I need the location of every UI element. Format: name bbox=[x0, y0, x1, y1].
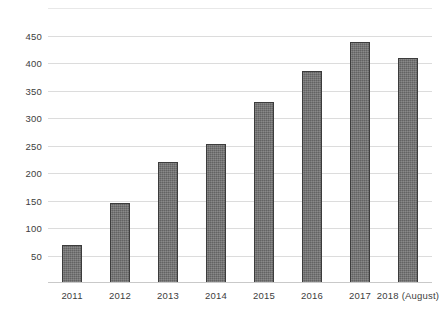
y-tick-label: 300 bbox=[2, 113, 42, 124]
x-tick-label: 2016 bbox=[301, 290, 323, 301]
bar bbox=[350, 42, 370, 283]
bar bbox=[206, 144, 226, 283]
y-tick-label: 350 bbox=[2, 85, 42, 96]
y-tick-label: 150 bbox=[2, 195, 42, 206]
y-tick-label: 250 bbox=[2, 140, 42, 151]
x-tick-label: 2011 bbox=[61, 290, 82, 301]
x-tick-label: 2012 bbox=[109, 290, 131, 301]
gridline-50 bbox=[48, 256, 432, 257]
bar bbox=[62, 245, 82, 284]
y-tick-label: 50 bbox=[2, 250, 42, 261]
x-axis-line bbox=[48, 282, 432, 283]
gridline-150 bbox=[48, 201, 432, 202]
gridline-500 bbox=[48, 8, 432, 9]
x-tick-label: 2015 bbox=[253, 290, 275, 301]
bar bbox=[398, 58, 418, 284]
y-tick-label: 100 bbox=[2, 223, 42, 234]
gridline-300 bbox=[48, 118, 432, 119]
y-axis: 50100150200250300350400450 bbox=[0, 8, 42, 283]
y-tick-label: 450 bbox=[2, 30, 42, 41]
gridline-100 bbox=[48, 228, 432, 229]
gridline-350 bbox=[48, 91, 432, 92]
bar bbox=[254, 102, 274, 284]
bar bbox=[302, 71, 322, 283]
x-tick-label: 2018 (August) bbox=[377, 290, 439, 301]
gridline-450 bbox=[48, 36, 432, 37]
plot-area bbox=[48, 8, 432, 283]
y-tick-label: 200 bbox=[2, 168, 42, 179]
bar bbox=[110, 203, 130, 283]
gridline-200 bbox=[48, 173, 432, 174]
x-tick-label: 2013 bbox=[157, 290, 179, 301]
bar bbox=[158, 162, 178, 283]
x-tick-label: 2014 bbox=[205, 290, 227, 301]
x-axis: 20112012201320142015201620172018 (August… bbox=[48, 290, 432, 310]
x-tick-label: 2017 bbox=[349, 290, 371, 301]
y-tick-label: 400 bbox=[2, 58, 42, 69]
gridline-250 bbox=[48, 146, 432, 147]
bar-chart: 50100150200250300350400450 2011201220132… bbox=[0, 0, 441, 318]
gridline-400 bbox=[48, 63, 432, 64]
